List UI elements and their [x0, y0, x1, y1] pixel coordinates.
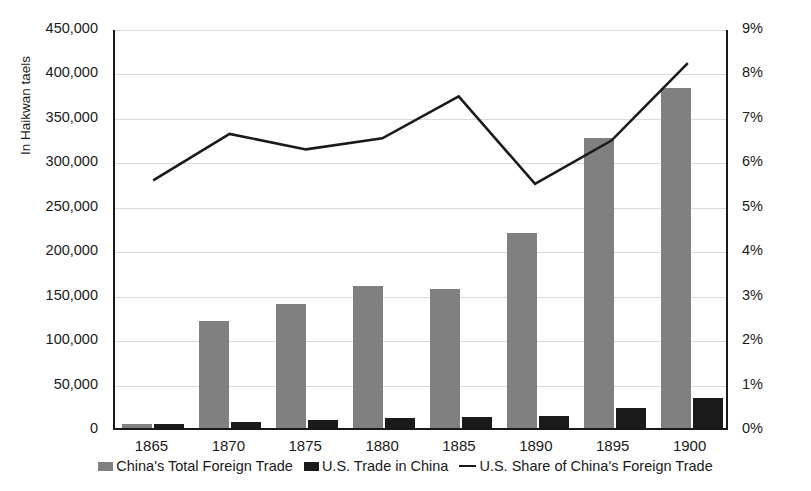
- y-axis-left-tick-label: 50,000: [0, 376, 98, 392]
- y-axis-right-tick-label: 8%: [742, 64, 802, 80]
- x-axis-tick-label: 1865: [111, 437, 191, 454]
- legend-swatch-us-icon: [304, 462, 319, 471]
- plot-area: [113, 30, 728, 430]
- legend-item[interactable]: U.S. Share of China's Foreign Trade: [459, 458, 712, 474]
- y-axis-right-tick-label: 7%: [742, 109, 802, 125]
- y-axis-left-tick-label: 250,000: [0, 198, 98, 214]
- x-axis-tick-label: 1890: [496, 437, 576, 454]
- y-axis-left-tick-label: 400,000: [0, 64, 98, 80]
- x-axis-tick-label: 1880: [342, 437, 422, 454]
- y-axis-right-tick-label: 3%: [742, 287, 802, 303]
- y-axis-left-tick-label: 300,000: [0, 153, 98, 169]
- legend-item[interactable]: China's Total Foreign Trade: [98, 458, 293, 474]
- x-axis-tick-label: 1900: [650, 437, 730, 454]
- legend-label: U.S. Trade in China: [322, 458, 449, 474]
- chart-container: In Haikwan taels 450,000400,000350,00030…: [0, 0, 811, 491]
- y-axis-right-tick-label: 4%: [742, 242, 802, 258]
- legend-label: China's Total Foreign Trade: [116, 458, 293, 474]
- y-axis-left-tick-label: 200,000: [0, 242, 98, 258]
- y-axis-left-tick-label: 100,000: [0, 331, 98, 347]
- legend-item[interactable]: U.S. Trade in China: [304, 458, 449, 474]
- y-axis-left-tick-label: 450,000: [0, 20, 98, 36]
- y-axis-right-tick-label: 9%: [742, 20, 802, 36]
- y-axis-left-tick-label: 150,000: [0, 287, 98, 303]
- legend-label: U.S. Share of China's Foreign Trade: [479, 458, 712, 474]
- legend-swatch-total-icon: [98, 462, 113, 471]
- x-axis-tick-label: 1875: [265, 437, 345, 454]
- legend-swatch-line-icon: [459, 465, 476, 467]
- line-series-us-share: [115, 30, 726, 428]
- line-path-us-share: [153, 63, 688, 184]
- chart-legend: China's Total Foreign TradeU.S. Trade in…: [0, 458, 811, 474]
- y-axis-right-tick-label: 1%: [742, 376, 802, 392]
- x-axis-tick-label: 1870: [188, 437, 268, 454]
- y-axis-right-tick-label: 0%: [742, 420, 802, 436]
- y-axis-right-tick-label: 2%: [742, 331, 802, 347]
- x-axis-tick-label: 1895: [573, 437, 653, 454]
- y-axis-right-tick-label: 6%: [742, 153, 802, 169]
- y-axis-left-tick-label: 350,000: [0, 109, 98, 125]
- y-axis-right-tick-label: 5%: [742, 198, 802, 214]
- x-axis-tick-label: 1885: [419, 437, 499, 454]
- y-axis-left-tick-label: 0: [0, 420, 98, 436]
